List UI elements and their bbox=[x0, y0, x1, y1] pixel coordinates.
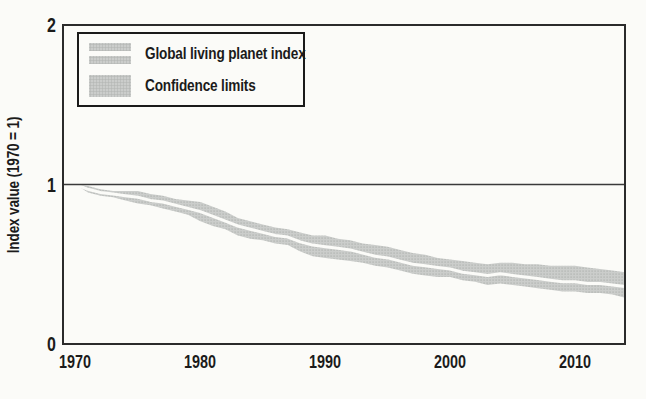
living-planet-index-chart: Index value (1970 = 1) Global living pla… bbox=[0, 0, 646, 399]
y-tick-label: 2 bbox=[27, 14, 56, 36]
x-tick-label: 1990 bbox=[303, 352, 348, 372]
legend-item-label: Global living planet index bbox=[145, 44, 306, 64]
legend-swatch-confidence-band bbox=[89, 75, 131, 97]
x-tick-label: 2000 bbox=[428, 352, 473, 372]
x-tick-label: 1970 bbox=[53, 352, 98, 372]
legend-swatch-index-line bbox=[89, 43, 131, 64]
legend-item-label: Confidence limits bbox=[145, 76, 256, 96]
legend: Global living planet index Confidence li… bbox=[77, 32, 305, 107]
x-tick-label: 1980 bbox=[178, 352, 223, 372]
band-stripe-bottom bbox=[89, 56, 131, 64]
band-stripe-top bbox=[89, 43, 131, 51]
legend-item: Confidence limits bbox=[89, 74, 293, 97]
legend-item: Global living planet index bbox=[89, 42, 293, 65]
x-tick-label: 2010 bbox=[553, 352, 598, 372]
y-tick-label: 1 bbox=[27, 174, 56, 196]
